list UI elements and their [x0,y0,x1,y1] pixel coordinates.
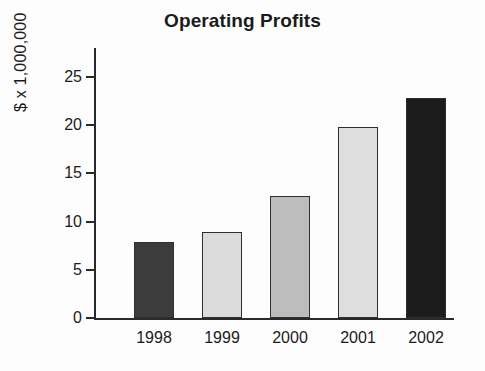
y-axis-tick-label: 10 [64,213,82,231]
y-axis-tick-label: 25 [64,68,82,86]
bar-chart-figure: Operating Profits $ x 1,000,000 05101520… [0,0,485,371]
x-axis-tick-label: 2001 [340,329,376,347]
y-axis-tick [86,221,94,223]
y-axis-tick-label: 0 [73,309,82,327]
bar-2000 [270,196,310,318]
plot-area: 0510152025 19981999200020012002 [94,48,454,320]
x-axis-tick-label: 1999 [204,329,240,347]
y-axis-tick-label: 15 [64,164,82,182]
y-axis-tick [86,76,94,78]
bar-1998 [134,242,174,318]
y-axis-tick [86,269,94,271]
y-axis-tick-label: 5 [73,261,82,279]
y-axis-label: $ x 1,000,000 [12,0,30,112]
bar-1999 [202,232,242,318]
x-axis-tick-label: 2002 [408,329,444,347]
y-axis-tick [86,317,94,319]
y-axis-line [94,48,96,320]
x-axis-tick-label: 2000 [272,329,308,347]
x-axis-tick-label: 1998 [136,329,172,347]
bar-2001 [338,127,378,318]
y-axis-tick [86,172,94,174]
y-axis-tick [86,124,94,126]
chart-title: Operating Profits [0,10,485,32]
x-axis-line [94,318,454,320]
bar-2002 [406,98,446,318]
y-axis-tick-label: 20 [64,116,82,134]
